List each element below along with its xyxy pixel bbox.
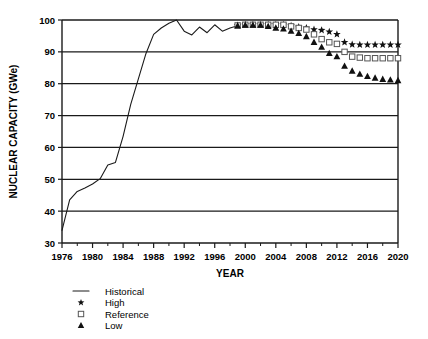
chart-figure: 30405060708090100 1976198019841988199219… xyxy=(0,0,428,339)
reference-marker-2014 xyxy=(349,54,354,59)
y-tick-label-50: 50 xyxy=(44,174,55,185)
x-axis-title-text: YEAR xyxy=(216,268,245,279)
reference-marker-2013 xyxy=(342,49,347,54)
y-tick-label-40: 40 xyxy=(44,206,55,217)
reference-marker-2011 xyxy=(327,40,332,45)
x-tick-label-2004: 2004 xyxy=(265,251,287,262)
y-tick-label-70: 70 xyxy=(44,110,55,121)
nuclear-capacity-chart: 30405060708090100 1976198019841988199219… xyxy=(0,0,428,339)
y-tick-label-90: 90 xyxy=(44,46,55,57)
y-tick-label-30: 30 xyxy=(44,238,55,249)
legend-marker-reference xyxy=(78,311,83,316)
reference-marker-2017 xyxy=(372,56,377,61)
reference-marker-2020 xyxy=(395,56,400,61)
x-tick-label-2012: 2012 xyxy=(326,251,347,262)
reference-marker-2010 xyxy=(319,36,324,41)
legend-label-high: High xyxy=(105,297,125,308)
x-tick-label-1992: 1992 xyxy=(174,251,195,262)
x-tick-label-1988: 1988 xyxy=(143,251,164,262)
reference-marker-2009 xyxy=(311,32,316,37)
legend-label-reference: Reference xyxy=(105,309,149,320)
x-tick-label-2008: 2008 xyxy=(296,251,317,262)
chart-background xyxy=(0,0,428,339)
y-tick-label-100: 100 xyxy=(39,15,55,26)
x-tick-label-1980: 1980 xyxy=(82,251,103,262)
x-tick-label-1996: 1996 xyxy=(204,251,225,262)
x-tick-label-2020: 2020 xyxy=(387,251,408,262)
reference-marker-2018 xyxy=(380,56,385,61)
reference-marker-2016 xyxy=(365,56,370,61)
y-axis-title: NUCLEAR CAPACITY (GWe) xyxy=(8,65,19,199)
x-tick-label-1976: 1976 xyxy=(51,251,72,262)
legend-label-low: Low xyxy=(105,320,123,331)
x-tick-label-1984: 1984 xyxy=(113,251,135,262)
x-axis-title: YEAR xyxy=(216,268,245,279)
legend-label-historical: Historical xyxy=(105,286,144,297)
y-axis-title-text: NUCLEAR CAPACITY (GWe) xyxy=(8,65,19,199)
x-tick-label-2016: 2016 xyxy=(357,251,378,262)
reference-marker-2008 xyxy=(304,27,309,32)
y-tick-label-60: 60 xyxy=(44,142,55,153)
y-tick-label-80: 80 xyxy=(44,78,55,89)
reference-marker-2019 xyxy=(388,56,393,61)
reference-marker-2012 xyxy=(334,41,339,46)
x-tick-label-2000: 2000 xyxy=(235,251,256,262)
reference-marker-2015 xyxy=(357,55,362,60)
